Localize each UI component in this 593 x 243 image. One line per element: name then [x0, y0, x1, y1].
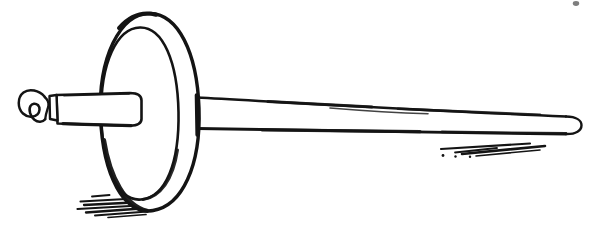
shadow-dot — [454, 155, 456, 157]
grip-shading — [63, 124, 131, 126]
grip-body — [57, 93, 142, 126]
scan-speck-artifact — [573, 1, 579, 6]
fencing-foil-drawing: Fencing foil Line drawing of a fencing f… — [0, 0, 593, 243]
speck-icon — [573, 1, 579, 6]
guard-right-edge-accent — [197, 95, 198, 135]
foil-grip — [57, 93, 142, 126]
shadow-dot — [469, 156, 471, 158]
illustration-canvas: Fencing foil Line drawing of a fencing f… — [0, 0, 593, 243]
shadow-dot — [442, 154, 445, 157]
blade-edge-accent — [262, 130, 420, 132]
blade-edge-accent — [442, 132, 566, 134]
